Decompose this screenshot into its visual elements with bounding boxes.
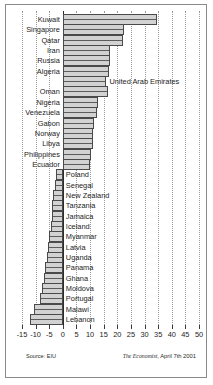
- category-label: Lebanon: [66, 314, 95, 325]
- axis-tick-5: [76, 325, 77, 329]
- axis-tick-20: [117, 325, 118, 329]
- axis-tick-label: 5: [74, 330, 78, 339]
- axis-tick-label: 10: [86, 330, 94, 339]
- axis-tick-30: [145, 325, 146, 329]
- axis-tick-10: [90, 325, 91, 329]
- chart-frame: KuwaitSingaporeQatarIranRussiaAlgeriaUni…: [5, 4, 207, 378]
- axis-tick--15: [22, 325, 23, 329]
- axis-tick--5: [49, 325, 50, 329]
- x-axis: -15-10-505101520253035404550: [6, 325, 208, 347]
- axis-tick--10: [36, 325, 37, 329]
- axis-tick-label: 40: [168, 330, 176, 339]
- axis-tick-label: -15: [17, 330, 28, 339]
- axis-tick-label: 30: [140, 330, 148, 339]
- axis-tick-label: 15: [100, 330, 108, 339]
- publication-brand: The Economist: [123, 353, 158, 359]
- axis-tick-label: 25: [127, 330, 135, 339]
- axis-tick-50: [199, 325, 200, 329]
- axis-tick-label: 35: [154, 330, 162, 339]
- axis-tick-label: -10: [30, 330, 41, 339]
- publication-credit: The Economist, April 7th 2001: [123, 353, 196, 359]
- plot-area: KuwaitSingaporeQatarIranRussiaAlgeriaUni…: [6, 5, 208, 325]
- axis-tick-25: [131, 325, 132, 329]
- axis-tick-label: 20: [113, 330, 121, 339]
- axis-tick-label: -5: [46, 330, 53, 339]
- bar: [30, 314, 63, 325]
- axis-tick-15: [104, 325, 105, 329]
- axis-tick-35: [158, 325, 159, 329]
- publication-date: , April 7th 2001: [157, 353, 196, 359]
- axis-tick-0: [63, 325, 64, 329]
- axis-tick-40: [172, 325, 173, 329]
- axis-tick-label: 0: [61, 330, 65, 339]
- axis-tick-45: [185, 325, 186, 329]
- axis-tick-label: 50: [195, 330, 203, 339]
- source-note: Source: EIU: [26, 353, 56, 359]
- axis-tick-label: 45: [181, 330, 189, 339]
- chart-footer: Source: EIU The Economist, April 7th 200…: [6, 353, 208, 373]
